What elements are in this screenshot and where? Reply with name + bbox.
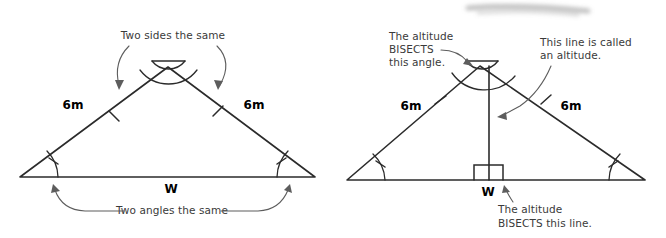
right-side-length-label: 6m: [561, 99, 582, 113]
right-diagram: 6m 6m W The altitude BISECTS this angle.…: [347, 30, 645, 229]
right-side-length-label: 6m: [244, 98, 265, 112]
left-side-tick: [109, 111, 119, 121]
base-left-angle-mark: [373, 154, 385, 180]
base-length-label: W: [164, 182, 177, 196]
bisects-angle-line3: this angle.: [389, 56, 445, 68]
figure-canvas: 6m 6m W Two sides the same Two angles th…: [0, 0, 666, 238]
two-sides-annotation: Two sides the same: [115, 29, 226, 90]
bisects-angle-annotation: The altitude BISECTS this angle.: [388, 30, 473, 68]
bisects-angle-line2: BISECTS: [389, 43, 434, 55]
altitude-name-line2: an altitude.: [540, 49, 601, 61]
bisects-line-annotation: The altitude BISECTS this line.: [497, 185, 592, 229]
page-scan-smudge: [468, 7, 588, 15]
base-right-angle-mark: [609, 154, 620, 180]
bisects-line-line2: BISECTS this line.: [498, 217, 592, 229]
right-side-tick: [541, 95, 551, 104]
bisects-angle-line1: The altitude: [388, 30, 453, 42]
altitude-name-line1: This line is called: [539, 36, 632, 48]
left-diagram: 6m 6m W Two sides the same Two angles th…: [20, 29, 315, 216]
left-side-length-label: 6m: [401, 99, 422, 113]
bisects-line-line1: The altitude: [497, 203, 562, 215]
right-side-tick: [213, 106, 223, 116]
base-length-label: W: [481, 185, 494, 199]
two-angles-annotation-text: Two angles the same: [115, 204, 228, 216]
left-side-length-label: 6m: [63, 98, 84, 112]
apex-angle-mark: [452, 61, 515, 90]
triangle-outline: [347, 66, 645, 180]
left-side-tick: [435, 96, 446, 104]
two-sides-annotation-text: Two sides the same: [120, 29, 225, 41]
